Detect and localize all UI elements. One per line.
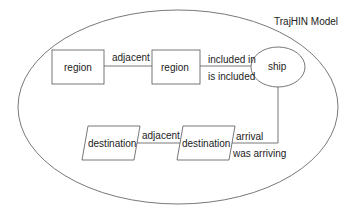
edge-label-was-arriving: was arriving (233, 148, 286, 160)
region-node-1-label: region (64, 62, 92, 74)
region-node-2-label: region (161, 62, 189, 74)
model-boundary-ellipse (18, 10, 338, 204)
edge-label-included-in: included in (208, 54, 256, 66)
edge-label-arrival: arrival (236, 131, 263, 143)
diagram-canvas (0, 0, 355, 216)
ship-node-label: ship (268, 61, 286, 73)
destination-node-2-label: destination (182, 138, 230, 150)
edge-label-destination-adjacent: adjacent (142, 130, 180, 142)
edge-label-is-included: is included (208, 71, 255, 83)
destination-node-1-label: destination (88, 138, 136, 150)
edge-label-region-adjacent: adjacent (112, 52, 150, 64)
diagram-title: TrajHIN Model (274, 16, 338, 28)
